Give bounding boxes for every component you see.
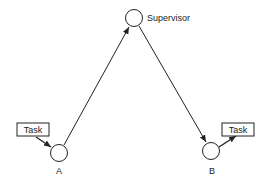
edge-b-to-task xyxy=(219,136,236,147)
node-b[interactable] xyxy=(203,143,220,160)
node-a-label: A xyxy=(56,166,62,176)
task-left-label: Task xyxy=(24,125,43,135)
supervisor-label: Supervisor xyxy=(147,13,190,23)
edge-a-to-supervisor xyxy=(64,27,129,145)
node-a[interactable] xyxy=(51,145,68,162)
diagram-canvas: Supervisor A B Task Task xyxy=(0,0,269,183)
task-right-label: Task xyxy=(229,125,248,135)
edge-task-to-a xyxy=(36,137,51,147)
node-b-label: B xyxy=(209,166,215,176)
supervisor-node[interactable] xyxy=(126,10,143,27)
edge-supervisor-to-b xyxy=(139,26,206,142)
